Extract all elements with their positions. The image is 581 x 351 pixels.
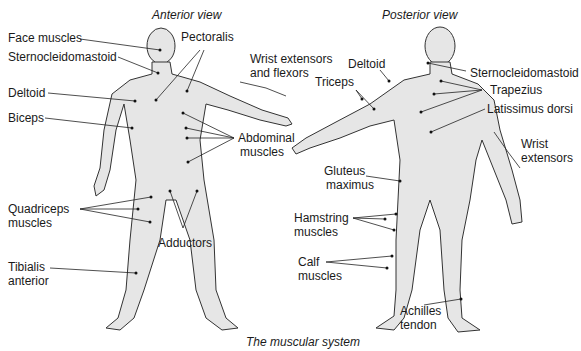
label-trapezius: Trapezius (490, 83, 542, 97)
label-wrist-extensors-line1: Wrist (521, 137, 548, 151)
label-deltoid-anterior: Deltoid (8, 86, 45, 100)
label-tibialis-line2: anterior (8, 274, 49, 288)
label-sternocleidomastoid-anterior: Sternocleidomastoid (8, 50, 117, 64)
label-calf-line2: muscles (298, 269, 342, 283)
label-sternocleidomastoid-posterior: Sternocleidomastoid (470, 66, 579, 80)
label-biceps: Biceps (8, 111, 44, 125)
label-achilles-line1: Achilles (400, 304, 441, 318)
label-hamstring-line2: muscles (294, 225, 338, 239)
label-latissimus-dorsi: Latissimus dorsi (487, 102, 573, 116)
muscular-system-diagram: Anterior view Posterior view Face muscle… (0, 0, 581, 351)
label-abdominal-line2: muscles (240, 145, 284, 159)
label-hamstring-line1: Hamstring (294, 211, 349, 225)
label-abdominal-line1: Abdominal (238, 131, 295, 145)
label-wrist-extensors-line2: extensors (521, 151, 573, 165)
label-wrist-extensors-flexors-line2: and flexors (250, 66, 309, 80)
figure-caption: The muscular system (246, 335, 360, 349)
label-wrist-extensors-flexors-line1: Wrist extensors (250, 52, 332, 66)
label-deltoid-posterior: Deltoid (348, 57, 385, 71)
anterior-view-title: Anterior view (152, 8, 221, 22)
label-tibialis-line1: Tibialis (8, 260, 45, 274)
label-pectoralis: Pectoralis (181, 30, 234, 44)
label-quadriceps-line1: Quadriceps (8, 202, 69, 216)
label-gluteus-line2: maximus (326, 178, 374, 192)
label-calf-line1: Calf (298, 255, 319, 269)
label-adductors: Adductors (158, 236, 212, 250)
posterior-view-title: Posterior view (382, 8, 457, 22)
label-quadriceps-line2: muscles (8, 216, 52, 230)
label-gluteus-line1: Gluteus (324, 164, 365, 178)
label-triceps: Triceps (315, 75, 354, 89)
label-achilles-line2: tendon (400, 318, 437, 332)
label-face-muscles: Face muscles (8, 31, 82, 45)
